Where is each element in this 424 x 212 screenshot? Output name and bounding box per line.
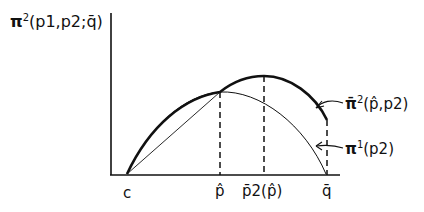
label-pi1: π1(p2) xyxy=(345,140,394,157)
x-tick-q-bar: q̄ xyxy=(322,184,332,199)
label-pi-bar2-prefix: π̄ xyxy=(345,95,357,113)
x-tick-p-hat: p̂ xyxy=(215,184,225,199)
y-axis-label-pi: π xyxy=(10,12,23,31)
curve-pi-bar2 xyxy=(127,76,327,174)
label-pi-bar2-args: (p̂,p2) xyxy=(363,95,408,113)
y-axis-label-args: (p1,p2;q̄) xyxy=(29,12,103,31)
x-tick-c: c xyxy=(123,186,131,201)
curve-pi1 xyxy=(127,92,326,174)
label-pi1-prefix: π xyxy=(345,140,357,158)
label-pi-bar2: π̄2(p̂,p2) xyxy=(345,95,408,112)
arrow-pi1 xyxy=(316,145,343,148)
y-axis-label: π2(p1,p2;q̄) xyxy=(10,13,103,30)
label-pi1-args: (p2) xyxy=(363,140,394,158)
x-tick-p2-bar: p̄2(p̂) xyxy=(242,184,282,199)
chord-line xyxy=(127,92,220,174)
